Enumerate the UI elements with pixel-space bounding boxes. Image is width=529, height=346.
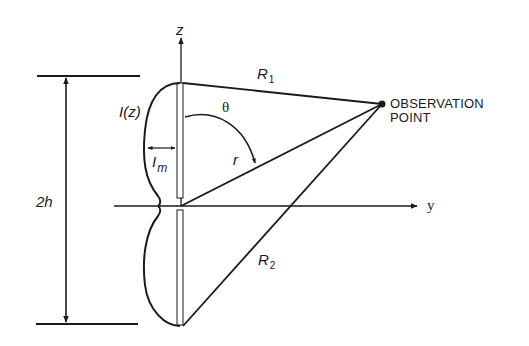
observation-point-dot bbox=[379, 101, 386, 108]
r2-label: R2 bbox=[258, 252, 275, 267]
current-distribution-lower bbox=[144, 206, 180, 326]
height-label: 2h bbox=[36, 194, 53, 209]
observation-point-label: OBSERVATION POINT bbox=[390, 97, 484, 125]
dipole-diagram: z y I(z) Im 2h θ r R1 R2 OBSERVATION POI… bbox=[0, 0, 529, 346]
antenna-lower-element bbox=[177, 210, 183, 325]
max-current-sub: m bbox=[157, 161, 167, 175]
y-axis-label: y bbox=[427, 198, 435, 213]
current-distribution-label: I(z) bbox=[119, 104, 141, 119]
r1-sub: 1 bbox=[269, 74, 275, 85]
r1-line bbox=[183, 83, 382, 104]
r2-base: R bbox=[258, 251, 269, 268]
max-current-base: I bbox=[152, 153, 156, 170]
theta-arc bbox=[185, 115, 255, 163]
observation-label-line1: OBSERVATION bbox=[390, 97, 484, 111]
max-current-label: Im bbox=[152, 154, 167, 169]
r1-label: R1 bbox=[257, 66, 274, 81]
r-label: r bbox=[233, 152, 238, 167]
r1-base: R bbox=[257, 65, 268, 82]
theta-label: θ bbox=[222, 100, 229, 115]
antenna-upper-element bbox=[177, 83, 183, 198]
observation-label-line2: POINT bbox=[390, 111, 484, 125]
diagram-graphics bbox=[0, 0, 529, 346]
r2-sub: 2 bbox=[270, 260, 276, 271]
current-distribution-upper bbox=[144, 83, 180, 206]
r-line bbox=[181, 104, 382, 206]
r2-line bbox=[183, 104, 382, 326]
z-axis-label: z bbox=[176, 22, 184, 37]
